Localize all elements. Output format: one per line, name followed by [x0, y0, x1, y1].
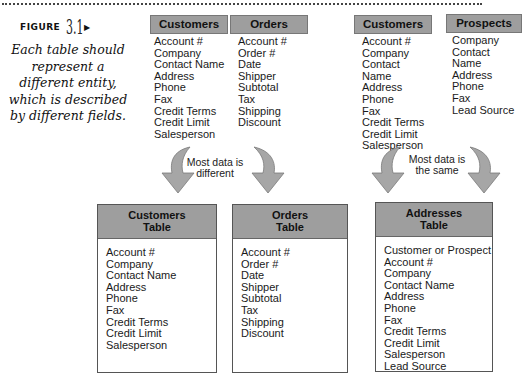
source-header: Customers: [150, 15, 228, 34]
figure-number: 3.1: [66, 17, 73, 37]
table-header: Addresses Table: [376, 203, 492, 237]
field-item: Lead Source: [452, 105, 522, 117]
note-most-data-different: Most data is different: [180, 157, 250, 179]
table-header: Orders Table: [233, 205, 347, 239]
field-item: Account #: [241, 247, 347, 259]
addresses-table: Addresses Table Customer or ProspectAcco…: [375, 202, 493, 372]
field-list: Customer or ProspectAccount #CompanyCont…: [376, 237, 492, 373]
source-header: Customers: [354, 15, 432, 34]
field-item: Credit Limit: [154, 117, 228, 129]
field-item: Account #: [238, 36, 308, 48]
field-item: Tax: [238, 94, 308, 106]
figure-word: FIGURE: [20, 22, 60, 32]
field-list: CompanyContact NameAddressPhoneFaxLead S…: [446, 35, 522, 116]
field-list: Account #CompanyContact NameAddressPhone…: [98, 239, 216, 351]
table-subtitle: Table: [376, 219, 492, 231]
source-header: Orders: [230, 15, 308, 34]
triangle-right-icon: ▶: [84, 23, 90, 32]
curved-arrow-down-left-icon: [370, 147, 410, 195]
field-item: Salesperson: [106, 340, 216, 352]
field-list: Account #Order #DateShipperSubtotalTaxSh…: [230, 36, 308, 129]
field-item: Account #: [154, 36, 228, 48]
field-item: Fax: [154, 94, 228, 106]
source-prospects: Prospects CompanyContact NameAddressPhon…: [446, 14, 522, 116]
field-list: Account #CompanyContact NameAddressPhone…: [354, 36, 432, 152]
field-item: Tax: [241, 305, 347, 317]
field-item: Credit Terms: [362, 117, 432, 129]
field-item: Account #: [362, 36, 432, 48]
field-list: Account #Order #DateShipperSubtotalTaxSh…: [233, 239, 347, 340]
field-item: Lead Source: [384, 361, 492, 373]
dotted-rule: [2, 3, 482, 5]
table-header: Customers Table: [98, 205, 216, 239]
table-title: Customers: [98, 209, 216, 221]
source-orders: Orders Account #Order #DateShipperSubtot…: [230, 15, 308, 129]
table-title: Orders: [233, 209, 347, 221]
field-item: Credit Limit: [106, 328, 216, 340]
customers-table: Customers Table Account #CompanyContact …: [97, 204, 217, 373]
source-customers-2: Customers Account #CompanyContact NameAd…: [354, 15, 432, 152]
curved-arrow-down-right-icon: [250, 147, 290, 195]
field-item: Salesperson: [154, 129, 228, 141]
field-item: Fax: [106, 305, 216, 317]
orders-table: Orders Table Account #Order #DateShipper…: [232, 204, 348, 373]
source-header: Prospects: [446, 14, 522, 33]
field-item: Discount: [241, 328, 347, 340]
field-item: Contact Name: [452, 47, 522, 70]
field-item: Customer or Prospect: [384, 245, 492, 257]
field-item: Phone: [384, 303, 492, 315]
table-title: Addresses: [376, 207, 492, 219]
curved-arrow-down-right-icon: [466, 147, 506, 195]
field-item: Account #: [106, 247, 216, 259]
field-list: Account #CompanyContact NameAddressPhone…: [150, 36, 228, 140]
field-item: Discount: [238, 117, 308, 129]
figure-caption: Each table should represent a different …: [4, 42, 132, 125]
field-item: Credit Terms: [384, 326, 492, 338]
table-subtitle: Table: [98, 221, 216, 233]
field-item: Company: [452, 35, 522, 47]
figure-label: FIGURE 3.1 ▶: [20, 17, 90, 37]
field-item: Fax: [452, 93, 522, 105]
source-customers-1: Customers Account #CompanyContact NameAd…: [150, 15, 228, 140]
field-item: Phone: [362, 94, 432, 106]
table-subtitle: Table: [233, 221, 347, 233]
field-item: Contact Name: [362, 59, 432, 82]
note-most-data-same: Most data is the same: [408, 154, 466, 176]
